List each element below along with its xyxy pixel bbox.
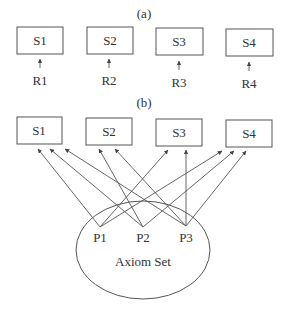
part-a-requirements: R1 R2 R3 R4: [32, 59, 257, 91]
requirement-label-r1: R1: [32, 73, 47, 88]
principles: P1 P2 P3: [93, 230, 193, 245]
system-box-s4: S4: [226, 29, 273, 56]
edge-p2-s2: [99, 149, 143, 227]
principle-label-p2: P2: [136, 230, 150, 245]
edge-p1-s1: [38, 149, 100, 227]
part-a-systems: S1 S2 S3 S4: [17, 27, 273, 56]
system-label: S1: [33, 33, 47, 48]
caption-a: (a): [137, 6, 151, 21]
system-label: S2: [102, 124, 116, 139]
system-box-s1: S1: [17, 117, 62, 144]
system-label: S2: [103, 33, 117, 48]
principle-label-p1: P1: [93, 230, 107, 245]
requirement-label-r2: R2: [101, 73, 116, 88]
principle-label-p3: P3: [179, 230, 193, 245]
system-box-s1: S1: [17, 27, 63, 54]
system-label: S3: [172, 125, 186, 140]
edge-p1-s4: [100, 151, 222, 227]
edge-p1-s3: [100, 150, 168, 227]
principle-edges: [38, 149, 246, 227]
system-box-s2: S2: [86, 118, 132, 145]
system-label: S3: [172, 34, 186, 49]
system-box-s4: S4: [226, 120, 272, 147]
axiom-set-ellipse: [76, 201, 210, 299]
system-label: S1: [32, 123, 46, 138]
system-box-s3: S3: [156, 28, 203, 55]
edge-p3-s4: [186, 151, 246, 226]
system-box-s2: S2: [87, 27, 133, 54]
caption-b: (b): [136, 95, 151, 110]
axiom-set-label: Axiom Set: [115, 254, 171, 269]
system-label: S4: [242, 35, 256, 50]
system-label: S4: [242, 126, 256, 141]
system-box-s3: S3: [156, 119, 202, 146]
part-b-systems: S1 S2 S3 S4: [17, 117, 272, 147]
requirement-label-r4: R4: [241, 76, 257, 91]
requirement-label-r3: R3: [171, 75, 186, 90]
diagram-canvas: (a) S1 S2 S3 S4 R1 R2 R3 R4 (b): [0, 0, 287, 313]
